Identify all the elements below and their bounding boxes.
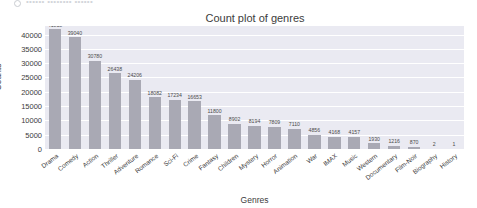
bar[interactable] — [368, 143, 380, 149]
bar[interactable] — [109, 73, 121, 149]
bar-slot: 4157 — [344, 26, 364, 149]
x-slot: Fantasy — [205, 151, 225, 193]
bar[interactable] — [288, 129, 300, 149]
y-tick-label: 0 — [0, 145, 42, 154]
bar[interactable] — [448, 149, 460, 150]
bar-value-label: 1930 — [368, 137, 380, 142]
x-tick-label: Sci-Fi — [162, 152, 179, 168]
y-tick-label: 5000 — [0, 130, 42, 139]
bar[interactable] — [248, 126, 260, 149]
x-slot: Mystery — [245, 151, 265, 193]
bar-value-label: 8902 — [229, 117, 241, 122]
x-axis-ticks: DramaComedyActionThrillerAdventureRomanc… — [45, 151, 464, 193]
bar-slot: 17234 — [165, 26, 185, 149]
bar[interactable] — [328, 137, 340, 149]
bar-slot: 39040 — [65, 26, 85, 149]
bar-slot: 8902 — [225, 26, 245, 149]
bar[interactable] — [268, 127, 280, 149]
bar-value-label: 16653 — [187, 95, 201, 100]
x-slot: Documentary — [384, 151, 404, 193]
bar-slot: 7809 — [264, 26, 284, 149]
bar[interactable] — [388, 146, 400, 149]
top-toolbar-strip: •••••• •••••••• •••••• — [0, 0, 477, 10]
bar[interactable] — [188, 101, 200, 149]
bar-value-label: 26438 — [108, 67, 122, 72]
x-slot: Romance — [145, 151, 165, 193]
bar-series: 4181839040307802643824206180821723416653… — [45, 26, 464, 149]
bar-value-label: 1216 — [388, 139, 400, 144]
bar-slot: 7110 — [284, 26, 304, 149]
bar-slot: 41818 — [45, 26, 65, 149]
bar[interactable] — [49, 29, 61, 149]
bar-slot: 2 — [424, 26, 444, 149]
x-slot: Animation — [284, 151, 304, 193]
bar-value-label: 18082 — [148, 91, 162, 96]
bar-value-label: 41818 — [48, 26, 62, 28]
bar[interactable] — [348, 137, 360, 149]
bar-slot: 4856 — [304, 26, 324, 149]
bar-value-label: 8194 — [249, 119, 261, 124]
x-slot: Music — [344, 151, 364, 193]
bar-value-label: 4157 — [348, 130, 360, 135]
x-slot: Drama — [45, 151, 65, 193]
bar[interactable] — [129, 80, 141, 149]
bar[interactable] — [69, 37, 81, 149]
bar[interactable] — [428, 149, 440, 150]
y-tick-label: 35000 — [0, 44, 42, 53]
bar-slot: 30780 — [85, 26, 105, 149]
x-slot: Sci-Fi — [165, 151, 185, 193]
bar[interactable] — [89, 61, 101, 149]
y-axis-ticks: 0500010000150002000025000300003500040000 — [0, 26, 45, 149]
x-slot: IMAX — [324, 151, 344, 193]
bar-slot: 1 — [444, 26, 464, 149]
y-tick-label: 25000 — [0, 73, 42, 82]
bar-value-label: 1 — [453, 142, 456, 147]
bar[interactable] — [308, 135, 320, 149]
bar[interactable] — [169, 100, 181, 149]
bar-slot: 1216 — [384, 26, 404, 149]
bar-slot: 16653 — [185, 26, 205, 149]
bar-value-label: 2 — [433, 142, 436, 147]
bar-value-label: 7809 — [269, 120, 281, 125]
x-tick-label: IMAX — [322, 152, 339, 167]
bar-value-label: 17234 — [167, 93, 181, 98]
screenshot-root: •••••• •••••••• •••••• Count plot of gen… — [0, 0, 477, 208]
chart-figure: Count plot of genres Counts 050001000015… — [0, 10, 477, 208]
bar-slot: 26438 — [105, 26, 125, 149]
x-slot: Crime — [185, 151, 205, 193]
bar[interactable] — [408, 147, 420, 149]
y-tick-label: 20000 — [0, 87, 42, 96]
bar-value-label: 24206 — [128, 73, 142, 78]
y-tick-label: 10000 — [0, 116, 42, 125]
y-tick-label: 40000 — [0, 30, 42, 39]
bar-value-label: 4856 — [309, 128, 321, 133]
top-strip-faint-text: •••••• •••••••• •••••• — [26, 0, 93, 6]
bar-value-label: 39040 — [68, 31, 82, 36]
y-tick-label: 30000 — [0, 59, 42, 68]
bar-slot: 4168 — [324, 26, 344, 149]
bar-slot: 11800 — [205, 26, 225, 149]
x-tick-label: War — [305, 152, 318, 165]
x-slot: Biography — [424, 151, 444, 193]
bar[interactable] — [149, 97, 161, 149]
bar-value-label: 870 — [410, 140, 419, 145]
x-slot: Children — [225, 151, 245, 193]
bar[interactable] — [208, 115, 220, 149]
bar-slot: 8194 — [245, 26, 265, 149]
plot-area: 4181839040307802643824206180821723416653… — [45, 26, 464, 149]
chart-title: Count plot of genres — [45, 12, 465, 24]
bar-value-label: 7110 — [289, 122, 300, 127]
x-axis-label: Genres — [45, 195, 464, 205]
bar-value-label: 30780 — [88, 54, 102, 59]
bar-slot: 870 — [404, 26, 424, 149]
x-slot: Action — [85, 151, 105, 193]
circle-avatar-icon — [14, 0, 21, 7]
bar[interactable] — [228, 124, 240, 149]
bar-slot: 18082 — [145, 26, 165, 149]
x-slot: Adventure — [125, 151, 145, 193]
bar-slot: 24206 — [125, 26, 145, 149]
x-slot: Comedy — [65, 151, 85, 193]
x-slot: War — [304, 151, 324, 193]
bar-slot: 1930 — [364, 26, 384, 149]
y-tick-label: 15000 — [0, 102, 42, 111]
